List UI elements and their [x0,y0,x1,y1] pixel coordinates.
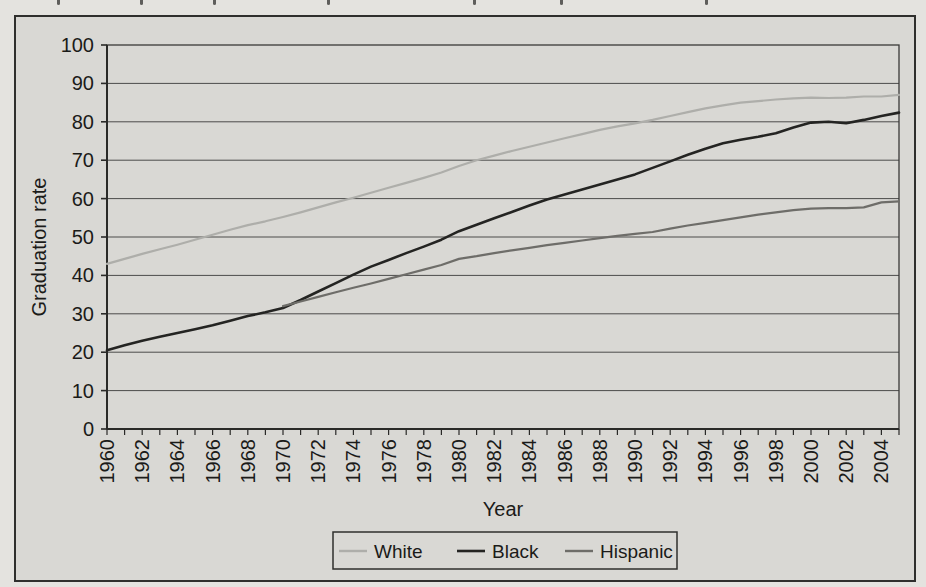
x-tick-label-1966: 1966 [202,439,224,484]
legend: White Black Hispanic [333,532,677,569]
y-tick-label-0: 0 [83,418,94,440]
cropped-text-fragment [473,0,476,5]
x-axis-title: Year [483,498,524,520]
y-axis-title: Graduation rate [28,178,50,317]
x-tick-label-1988: 1988 [589,439,611,484]
x-tick-label-1962: 1962 [131,439,153,484]
gridlines [107,83,899,390]
x-tick-label-1968: 1968 [237,439,259,484]
y-tick-label-10: 10 [72,380,94,402]
x-tick-label-2004: 2004 [870,439,892,484]
x-tick-label-1984: 1984 [518,439,540,484]
y-tick-label-20: 20 [72,341,94,363]
y-tick-label-40: 40 [72,264,94,286]
x-tick-label-1974: 1974 [342,439,364,484]
legend-label-black: Black [492,541,539,562]
y-tick-label-50: 50 [72,226,94,248]
figure-frame: 0102030405060708090100 19601962196419661… [14,15,916,582]
x-tick-label-1990: 1990 [624,439,646,484]
y-tick-label-70: 70 [72,149,94,171]
series-line-hispanic [283,201,899,306]
cropped-text-fragment [327,0,330,5]
x-tick-label-1978: 1978 [413,439,435,484]
x-tick-label-1998: 1998 [765,439,787,484]
x-tick-label-1976: 1976 [378,439,400,484]
y-tick-label-60: 60 [72,188,94,210]
data-series [107,95,899,350]
legend-label-hispanic: Hispanic [600,541,673,562]
x-tick-label-1982: 1982 [483,439,505,484]
x-tick-label-1980: 1980 [448,439,470,484]
cropped-text-fragment [705,0,708,5]
x-tick-label-1960: 1960 [96,439,118,484]
cropped-text-fragment [57,0,60,5]
x-tick-label-2002: 2002 [835,439,857,484]
x-tick-label-1970: 1970 [272,439,294,484]
scanned-book-page: 0102030405060708090100 19601962196419661… [0,0,926,587]
cropped-text-fragment [140,0,143,5]
x-tick-label-1986: 1986 [554,439,576,484]
x-tick-label-1994: 1994 [694,439,716,484]
y-tick-label-80: 80 [72,111,94,133]
legend-label-white: White [374,541,423,562]
x-tick-label-1996: 1996 [730,439,752,484]
cropped-text-fragment [213,0,216,5]
y-tick-label-30: 30 [72,303,94,325]
y-axis-tick-labels: 0102030405060708090100 [61,34,94,440]
x-tick-label-1964: 1964 [166,439,188,484]
graduation-rate-line-chart: 0102030405060708090100 19601962196419661… [16,17,914,580]
x-tick-label-1992: 1992 [659,439,681,484]
y-tick-label-90: 90 [72,72,94,94]
y-tick-label-100: 100 [61,34,94,56]
x-axis-tick-labels: 1960196219641966196819701972197419761978… [96,439,892,484]
cropped-text-fragment [560,0,563,5]
series-line-white [107,95,899,264]
x-tick-label-2000: 2000 [800,439,822,484]
x-tick-label-1972: 1972 [307,439,329,484]
